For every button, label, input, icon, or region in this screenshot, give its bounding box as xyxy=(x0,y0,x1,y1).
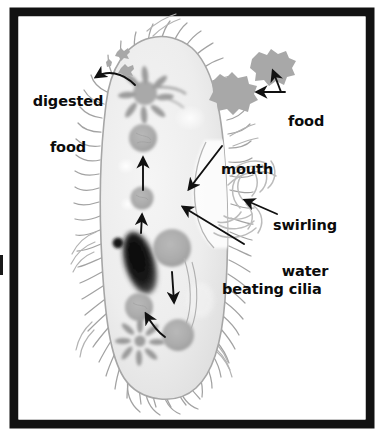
label-mouth: mouth xyxy=(221,132,273,208)
label-food-line1: food xyxy=(288,114,324,129)
micronucleus xyxy=(113,238,124,249)
paramecium-diagram: digested food food mouth swirling water … xyxy=(0,0,384,433)
label-swirling-water-line1: swirling xyxy=(268,218,342,233)
label-beating-cilia-line1: beating cilia xyxy=(222,282,322,297)
label-digested-food: digested food xyxy=(26,64,110,186)
food-particle xyxy=(250,49,296,86)
flow-arrow xyxy=(141,215,142,233)
label-mouth-line1: mouth xyxy=(221,162,273,177)
label-digested-food-line1: digested xyxy=(26,94,110,109)
edge-artifact xyxy=(0,255,3,275)
food-vacuole xyxy=(125,293,153,321)
food-vacuole xyxy=(162,319,194,351)
food-vacuole xyxy=(129,124,157,152)
food-vacuole xyxy=(131,187,154,210)
label-food: food xyxy=(288,84,324,160)
label-digested-food-line2: food xyxy=(26,140,110,155)
label-beating-cilia: beating cilia xyxy=(222,252,322,328)
